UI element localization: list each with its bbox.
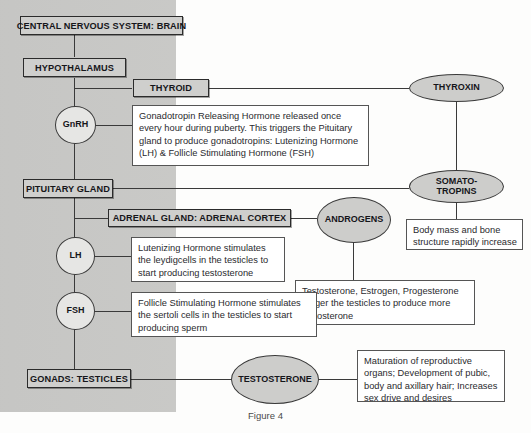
hormone-regulation-diagram: CENTRAL NERVOUS SYSTEM: BRAIN HYPOTHALAM…: [0, 0, 531, 433]
connector-gonads-testosterone: [130, 379, 231, 380]
note-lh: Lutenizing Hormone stimulates the leydig…: [131, 237, 285, 282]
note-gnrh: Gonadotropin Releasing Hormone released …: [132, 105, 369, 166]
note-testosterone: Maturation of reproductive organs; Devel…: [357, 350, 505, 402]
node-central-nervous-system[interactable]: CENTRAL NERVOUS SYSTEM: BRAIN: [20, 16, 183, 35]
connector-pituitary-adrenal: [74, 218, 108, 219]
connector-somatotropins-note: [456, 202, 457, 220]
connector-pituitary-somatotropins: [112, 188, 409, 189]
connector-gnrh-note: [95, 125, 133, 126]
note-androgens: Testosterone, Estrogen, Progesterone tri…: [295, 280, 475, 325]
connector-hypothalamus-thyroid: [74, 88, 132, 89]
connector-fsh-note: [94, 311, 132, 312]
node-pituitary-gland[interactable]: PITUITARY GLAND: [23, 179, 113, 198]
node-androgens[interactable]: ANDROGENS: [317, 197, 391, 243]
connector-androgens-note: [353, 242, 354, 281]
node-hypothalamus[interactable]: HYPOTHALAMUS: [23, 58, 126, 77]
node-fsh[interactable]: FSH: [56, 292, 95, 330]
node-lh[interactable]: LH: [56, 237, 95, 275]
note-somatotropins: Body mass and bone structure rapidly inc…: [406, 219, 523, 250]
connector-cns-hypothalamus: [74, 34, 75, 57]
connector-thyroxin-somatotropins: [456, 101, 457, 175]
connector-testosterone-note: [317, 379, 358, 380]
node-gnrh[interactable]: GnRH: [55, 106, 96, 144]
connector-thyroid-thyroxin: [208, 88, 409, 89]
node-testosterone[interactable]: TESTOSTERONE: [231, 355, 319, 404]
node-somatotropins[interactable]: SOMATO- TROPINS: [409, 170, 504, 203]
node-thyroid[interactable]: THYROID: [133, 79, 209, 97]
figure-caption: Figure 4: [0, 410, 531, 421]
node-adrenal-gland[interactable]: ADRENAL GLAND: ADRENAL CORTEX: [108, 209, 291, 227]
node-thyroxin[interactable]: THYROXIN: [409, 74, 504, 102]
connector-adrenal-androgens: [290, 218, 317, 219]
node-gonads-testicles[interactable]: GONADS: TESTICLES: [27, 369, 131, 388]
connector-lh-note: [94, 256, 132, 257]
note-fsh: Follicle Stimulating Hormone stimulates …: [131, 292, 317, 337]
connector-pituitary-spine: [74, 197, 75, 369]
